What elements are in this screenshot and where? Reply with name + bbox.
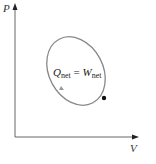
y-axis-arrow-icon xyxy=(13,3,18,10)
x-axis-label: V xyxy=(130,142,138,154)
y-axis-label: P xyxy=(2,2,10,14)
x-axis-arrow-icon xyxy=(132,135,139,140)
state-point xyxy=(102,96,106,100)
cycle-direction-arrow-icon xyxy=(59,86,64,90)
pv-cycle-plot: P V Qnet = Wnet xyxy=(0,0,156,164)
equation-label: Qnet = Wnet xyxy=(53,66,102,80)
pv-diagram: P V Qnet = Wnet xyxy=(0,0,156,164)
